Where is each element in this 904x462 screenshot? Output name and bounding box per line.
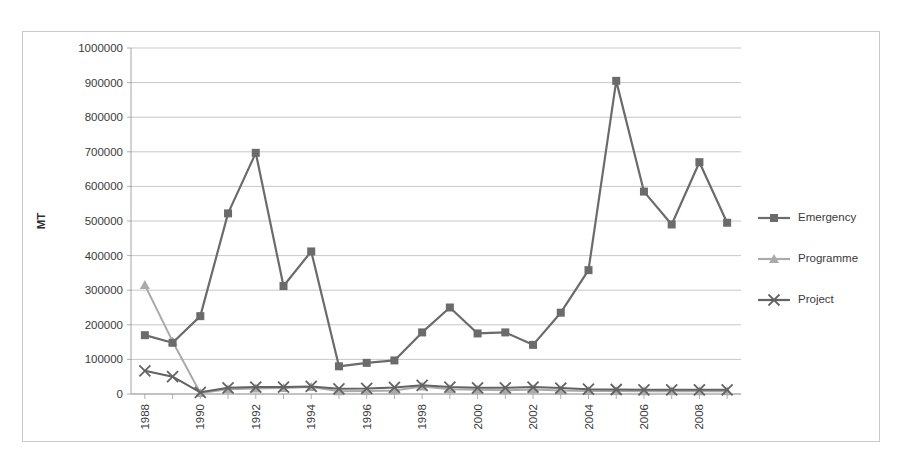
y-axis-ticks-group	[127, 48, 131, 394]
x-axis-tick-label: 1990	[194, 404, 206, 430]
x-axis-tick-label: 2002	[527, 404, 539, 430]
x-axis-tick-label: 2000	[472, 404, 484, 430]
legend-label-emergency: Emergency	[798, 211, 856, 223]
y-axis-tick-label: 500000	[85, 215, 123, 227]
y-axis-labels-group: 0100000200000300000400000500000600000700…	[78, 42, 123, 400]
x-axis-tick-label: 1998	[416, 404, 428, 430]
gridlines-group	[131, 48, 741, 394]
legend-label-programme: Programme	[798, 252, 858, 264]
legend-item-programme[interactable]: Programme	[758, 252, 858, 264]
x-axis-tick-label: 1988	[139, 404, 151, 430]
y-axis-tick-label: 100000	[85, 353, 123, 365]
legend-item-project[interactable]: Project	[758, 293, 835, 305]
series-emergency-point-square-marker	[446, 304, 454, 312]
y-axis-title-group: MT	[35, 213, 47, 230]
y-axis-tick-label: 400000	[85, 250, 123, 262]
y-axis-tick-label: 900000	[85, 77, 123, 89]
y-axis-tick-label: 700000	[85, 146, 123, 158]
x-axis-tick-label: 2004	[583, 403, 595, 429]
x-axis-tick-label: 1992	[250, 404, 262, 430]
x-axis-tick-label: 2008	[693, 404, 705, 430]
series-emergency-point-square-marker	[280, 282, 288, 290]
legend-swatch-emergency-square-marker	[770, 214, 778, 222]
series-emergency-point-square-marker	[335, 362, 343, 370]
series-emergency-point-square-marker	[612, 77, 620, 85]
series-line-emergency	[145, 81, 727, 366]
series-emergency	[141, 77, 731, 370]
series-emergency-point-square-marker	[307, 247, 315, 255]
series-emergency-point-square-marker	[363, 359, 371, 367]
y-axis-tick-label: 0	[117, 388, 123, 400]
series-emergency-point-square-marker	[224, 209, 232, 217]
chart-legend: EmergencyProgrammeProject	[758, 211, 858, 305]
x-axis-tick-label: 1994	[305, 403, 317, 429]
series-programme-point-triangle-marker	[140, 280, 150, 289]
series-programme	[140, 280, 732, 397]
series-emergency-point-square-marker	[529, 341, 537, 349]
y-axis-tick-label: 800000	[85, 111, 123, 123]
series-emergency-point-square-marker	[640, 188, 648, 196]
series-emergency-point-square-marker	[474, 329, 482, 337]
data-series-group	[139, 77, 732, 398]
x-axis-tick-label: 2006	[638, 404, 650, 430]
series-emergency-point-square-marker	[501, 328, 509, 336]
series-emergency-point-square-marker	[169, 339, 177, 347]
x-axis-labels-group: 1988199019921994199619982000200220042006…	[139, 403, 706, 429]
series-emergency-point-square-marker	[723, 219, 731, 227]
y-axis-title: MT	[35, 213, 47, 230]
y-axis-tick-label: 600000	[85, 180, 123, 192]
legend-label-project: Project	[798, 293, 835, 305]
line-chart: 0100000200000300000400000500000600000700…	[23, 32, 881, 443]
y-axis-tick-label: 1000000	[78, 42, 123, 54]
y-axis-tick-label: 300000	[85, 284, 123, 296]
chart-plot-area: 0100000200000300000400000500000600000700…	[23, 32, 881, 443]
series-emergency-point-square-marker	[252, 149, 260, 157]
legend-item-emergency[interactable]: Emergency	[758, 211, 856, 223]
series-emergency-point-square-marker	[585, 266, 593, 274]
series-emergency-point-square-marker	[141, 331, 149, 339]
series-emergency-point-square-marker	[557, 309, 565, 317]
series-emergency-point-square-marker	[390, 356, 398, 364]
series-emergency-point-square-marker	[418, 328, 426, 336]
chart-frame: 0100000200000300000400000500000600000700…	[22, 31, 880, 442]
series-emergency-point-square-marker	[668, 220, 676, 228]
y-axis-tick-label: 200000	[85, 319, 123, 331]
series-emergency-point-square-marker	[196, 312, 204, 320]
series-line-programme	[145, 285, 727, 393]
series-emergency-point-square-marker	[695, 158, 703, 166]
x-axis-tick-label: 1996	[361, 404, 373, 430]
